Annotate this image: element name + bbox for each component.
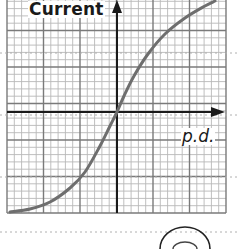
circle-icon [160, 227, 210, 249]
y-axis-label: Current [28, 1, 105, 18]
iv-curve [10, 1, 215, 212]
arrow-up-icon [112, 0, 122, 13]
x-axis-label: p.d. [181, 128, 215, 145]
iv-characteristic-diagram: Current p.d. [0, 0, 238, 249]
arrow-right-icon [211, 107, 225, 117]
circle-mark [160, 227, 210, 249]
graph-canvas [0, 0, 238, 249]
